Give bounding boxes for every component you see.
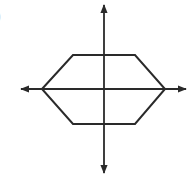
coordinate-diagram <box>0 0 196 179</box>
